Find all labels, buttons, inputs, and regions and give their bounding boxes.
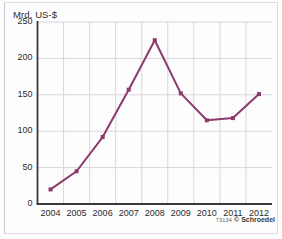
data-point-marker — [101, 135, 105, 139]
x-axis-tick-label: 2005 — [63, 208, 91, 218]
chart-figure: Mrd. US-$ 050100150200250 20042005200620… — [0, 0, 282, 239]
data-point-marker — [127, 88, 131, 92]
x-axis-tick-label: 2008 — [141, 208, 169, 218]
data-point-markers — [49, 38, 261, 191]
data-point-marker — [179, 91, 183, 95]
data-point-marker — [205, 118, 209, 122]
credit-code: 73134 — [216, 217, 232, 223]
y-axis-tick-label: 100 — [11, 125, 33, 135]
y-axis-tick-label: 150 — [11, 89, 33, 99]
data-point-marker — [75, 169, 79, 173]
data-point-marker — [257, 92, 261, 96]
data-point-marker — [49, 187, 53, 191]
x-axis-tick-label: 2007 — [115, 208, 143, 218]
y-axis-tick-label: 250 — [11, 16, 33, 26]
line-chart-plot — [0, 0, 282, 239]
data-point-marker — [153, 38, 157, 42]
x-axis-tick-label: 2009 — [167, 208, 195, 218]
credit-symbol: © — [234, 216, 239, 223]
gridlines — [38, 22, 273, 204]
series-line — [51, 40, 259, 189]
chart-credit: 73134 © Schroedel — [216, 216, 275, 223]
data-point-marker — [231, 116, 235, 120]
y-axis-tick-label: 200 — [11, 52, 33, 62]
x-axis-tick-label: 2004 — [37, 208, 65, 218]
data-series-line — [51, 40, 259, 189]
axis-lines — [37, 21, 273, 204]
y-axis-tick-label: 0 — [11, 198, 33, 208]
credit-brand: Schroedel — [241, 216, 275, 223]
y-axis-tick-label: 50 — [11, 162, 33, 172]
x-axis-tick-label: 2006 — [89, 208, 117, 218]
